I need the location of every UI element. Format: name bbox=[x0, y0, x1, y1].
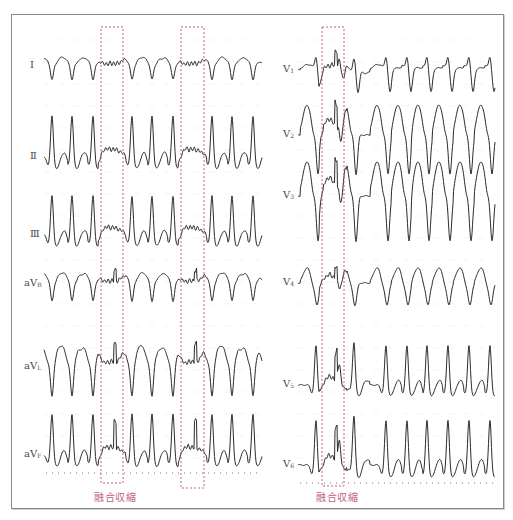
lead-label-avl: aVL bbox=[24, 361, 41, 373]
lead-label-v5: V5 bbox=[283, 379, 294, 391]
lead-label-v4: V4 bbox=[283, 277, 294, 289]
ecg-trace-iii bbox=[44, 196, 262, 247]
fusion-beat-box bbox=[322, 27, 344, 486]
fusion-beat-box bbox=[181, 27, 204, 488]
lead-label-iii: Ⅲ bbox=[30, 229, 40, 239]
fusion-caption-right: 融合収縮 bbox=[316, 489, 358, 504]
fusion-caption-left: 融合収縮 bbox=[94, 489, 136, 504]
ecg-trace-v6 bbox=[298, 416, 495, 478]
lead-label-avf: aVF bbox=[24, 449, 41, 461]
lead-label-i: Ⅰ bbox=[30, 60, 34, 70]
ecg-trace-v4 bbox=[298, 266, 495, 305]
lead-label-v2: V2 bbox=[283, 129, 294, 141]
lead-label-avr: aVR bbox=[24, 278, 42, 290]
lead-label-v1: V1 bbox=[283, 64, 294, 76]
ecg-figure: ⅠⅡⅢaVRaVLaVFV1V2V3V4V5V6 融合収縮 融合収縮 bbox=[0, 0, 513, 520]
ecg-trace-ii bbox=[44, 116, 262, 169]
ecg-traces bbox=[0, 0, 513, 520]
ecg-trace-v1 bbox=[298, 50, 495, 93]
fusion-beat-box bbox=[101, 27, 123, 483]
ecg-trace-avl bbox=[44, 341, 262, 396]
ecg-trace-avr bbox=[44, 268, 262, 302]
ecg-trace-v3 bbox=[298, 158, 495, 242]
lead-label-v3: V3 bbox=[283, 190, 294, 202]
ecg-trace-i bbox=[44, 57, 262, 80]
ecg-trace-v5 bbox=[298, 343, 495, 396]
lead-label-v6: V6 bbox=[283, 459, 294, 471]
ecg-trace-avf bbox=[44, 414, 262, 467]
lead-label-ii: Ⅱ bbox=[30, 151, 37, 161]
